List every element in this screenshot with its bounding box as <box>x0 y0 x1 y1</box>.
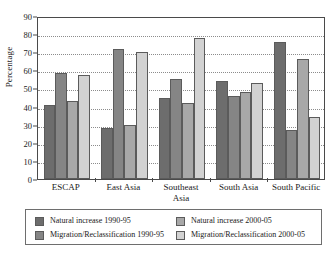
bar <box>159 98 171 180</box>
y-tick-label: 40 <box>24 103 33 113</box>
legend-label: Migration/Reclassification 2000-05 <box>191 230 305 240</box>
legend: Natural increase 1990-95Natural increase… <box>25 209 322 245</box>
x-category-label: SoutheastAsia <box>152 182 210 203</box>
y-tick-label: 0 <box>28 175 32 185</box>
legend-label: Migration/Reclassification 1990-95 <box>50 230 164 240</box>
y-tick-label: 30 <box>24 121 33 131</box>
x-category-label: East Asia <box>95 182 153 193</box>
bar <box>309 117 321 179</box>
bar <box>297 59 309 179</box>
legend-item[interactable]: Natural increase 1990-95 <box>35 216 131 226</box>
legend-swatch-icon <box>35 231 44 240</box>
legend-item[interactable]: Migration/Reclassification 1990-95 <box>35 230 164 240</box>
legend-item[interactable]: Migration/Reclassification 2000-05 <box>176 230 305 240</box>
y-tick-label: 20 <box>24 139 33 149</box>
y-tick-label: 70 <box>24 48 33 58</box>
legend-swatch-icon <box>35 217 44 226</box>
bar <box>67 101 79 179</box>
legend-swatch-icon <box>176 217 185 226</box>
bar <box>101 128 113 179</box>
bar <box>136 52 148 179</box>
x-category-label: South Pacific <box>267 182 325 193</box>
bar <box>286 130 298 179</box>
bar <box>44 105 56 179</box>
bar <box>274 42 286 179</box>
x-category-label: South Asia <box>210 182 268 193</box>
y-axis-ticks: 0102030405060708090 <box>0 17 37 180</box>
x-tick-label: South Asia <box>210 182 268 193</box>
x-tick-label: Asia <box>152 193 210 204</box>
y-tick-label: 80 <box>24 30 33 40</box>
bar <box>240 92 252 179</box>
bar <box>251 83 263 179</box>
x-axis-labels: ESCAPEast AsiaSoutheastAsiaSouth AsiaSou… <box>37 182 325 208</box>
x-tick-label: East Asia <box>95 182 153 193</box>
bar <box>170 79 182 179</box>
bar-chart: Percentage 0102030405060708090 ESCAPEast… <box>0 0 334 254</box>
bar <box>124 125 136 179</box>
bar <box>216 81 228 179</box>
legend-label: Natural increase 2000-05 <box>191 216 272 226</box>
x-tick-label: South Pacific <box>267 182 325 193</box>
legend-label: Natural increase 1990-95 <box>50 216 131 226</box>
bar <box>228 96 240 179</box>
bar <box>182 103 194 179</box>
y-tick-label: 10 <box>24 157 33 167</box>
y-tick-label: 60 <box>24 66 33 76</box>
x-tick-label: Southeast <box>152 182 210 193</box>
bar <box>55 73 67 179</box>
x-tick-label: ESCAP <box>37 182 95 193</box>
y-tick-label: 90 <box>24 12 33 22</box>
legend-item[interactable]: Natural increase 2000-05 <box>176 216 272 226</box>
plot-area <box>37 17 325 180</box>
bars-layer <box>38 18 324 179</box>
bar <box>78 75 90 179</box>
bar <box>113 49 125 179</box>
x-category-label: ESCAP <box>37 182 95 193</box>
legend-swatch-icon <box>176 231 185 240</box>
y-tick-label: 50 <box>24 84 33 94</box>
bar <box>194 38 206 179</box>
